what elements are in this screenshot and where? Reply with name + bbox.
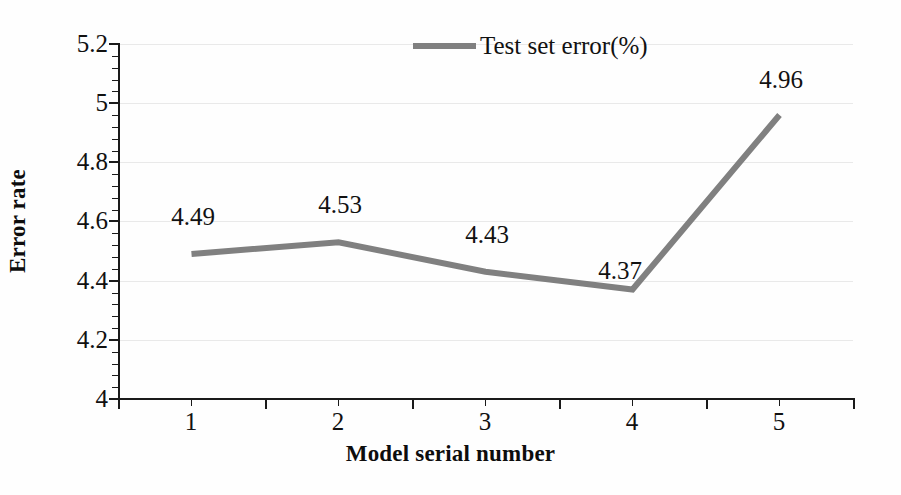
x-tick-major-0 (118, 400, 120, 409)
y-tick-label-4.0: 4 (48, 386, 108, 411)
y-tick-minor (112, 56, 118, 57)
y-tick-minor (112, 80, 118, 81)
x-tick-minor-5 (779, 400, 780, 406)
y-tick-minor (112, 139, 118, 140)
y-tick-label-5.0: 5 (48, 90, 108, 115)
data-label-point-5: 4.96 (738, 67, 824, 92)
y-tick-minor (112, 127, 118, 128)
x-axis-line (118, 398, 855, 400)
y-tick-minor (112, 186, 118, 187)
y-axis-line (118, 43, 120, 401)
y-tick-minor (112, 375, 118, 376)
y-tick-minor (112, 293, 118, 294)
chart-figure: 5.2 5 4.8 4.6 4.4 4.2 4 1 2 3 4 5 Error … (0, 0, 901, 495)
legend-swatch-test-set-error (413, 43, 476, 49)
x-tick-minor-4 (632, 400, 633, 406)
y-tick-minor (112, 233, 118, 234)
y-tick-minor (112, 115, 118, 116)
x-tick-major-3 (559, 400, 561, 409)
y-axis-title: Error rate (5, 141, 31, 301)
x-tick-major-2 (412, 400, 414, 409)
gridline-4.4 (118, 281, 853, 282)
y-tick-major-4.8 (109, 161, 118, 163)
gridline-4.8 (118, 162, 853, 163)
x-tick-label-1: 1 (161, 409, 221, 434)
x-tick-label-2: 2 (308, 409, 368, 434)
y-tick-minor (112, 198, 118, 199)
x-tick-label-4: 4 (602, 409, 662, 434)
y-tick-minor (112, 304, 118, 305)
x-tick-minor-3 (485, 400, 486, 406)
y-tick-major-4.6 (109, 220, 118, 222)
y-tick-label-4.8: 4.8 (48, 149, 108, 174)
y-tick-major-4.4 (109, 280, 118, 282)
y-tick-minor (112, 364, 118, 365)
data-label-point-1: 4.49 (150, 204, 236, 229)
data-label-point-2: 4.53 (297, 192, 383, 217)
x-tick-minor-1 (191, 400, 192, 406)
y-tick-label-4.4: 4.4 (48, 268, 108, 293)
y-tick-minor (112, 68, 118, 69)
y-tick-major-5.0 (109, 102, 118, 104)
y-axis-tick-labels: 5.2 5 4.8 4.6 4.4 4.2 4 (40, 0, 108, 495)
y-tick-minor (112, 210, 118, 211)
y-tick-label-4.6: 4.6 (48, 208, 108, 233)
data-label-point-4: 4.37 (577, 258, 663, 283)
x-axis-title: Model serial number (0, 441, 901, 467)
gridline-4.2 (118, 340, 853, 341)
legend: Test set error(%) (413, 33, 648, 58)
y-tick-minor (112, 387, 118, 388)
x-tick-minor-2 (338, 400, 339, 406)
legend-label-test-set-error: Test set error(%) (480, 33, 648, 58)
y-tick-minor (112, 174, 118, 175)
y-tick-label-4.2: 4.2 (48, 327, 108, 352)
y-tick-minor (112, 269, 118, 270)
gridline-5.0 (118, 103, 853, 104)
y-tick-minor (112, 352, 118, 353)
y-tick-minor (112, 245, 118, 246)
y-tick-minor (112, 257, 118, 258)
x-tick-major-4 (706, 400, 708, 409)
data-label-point-3: 4.43 (444, 222, 530, 247)
x-tick-major-5 (853, 400, 855, 409)
x-tick-major-1 (265, 400, 267, 409)
y-tick-major-4.0 (109, 398, 118, 400)
y-tick-major-4.2 (109, 339, 118, 341)
y-tick-minor (112, 328, 118, 329)
x-tick-label-3: 3 (455, 409, 515, 434)
y-tick-minor (112, 151, 118, 152)
x-tick-label-5: 5 (749, 409, 809, 434)
y-tick-major-5.2 (109, 43, 118, 45)
y-tick-label-5.2: 5.2 (48, 31, 108, 56)
y-tick-minor (112, 91, 118, 92)
y-tick-minor (112, 316, 118, 317)
